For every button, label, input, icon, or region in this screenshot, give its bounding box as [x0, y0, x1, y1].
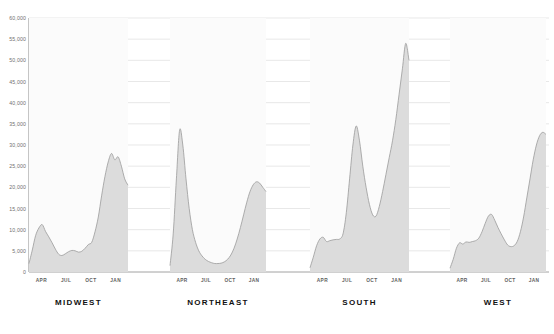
x-axis-tick-label: APR [171, 278, 193, 283]
y-axis-tick-label: 25,000 [0, 163, 26, 169]
x-axis-tick-label: OCT [80, 278, 102, 283]
panel-title-northeast: NORTHEAST [148, 298, 288, 307]
y-axis-tick-label: 35,000 [0, 121, 26, 127]
x-axis-tick-label: JUL [55, 278, 77, 283]
x-axis-tick-label: JAN [523, 278, 545, 283]
y-axis-tick-label: 50,000 [0, 57, 26, 63]
x-axis-tick-label: OCT [219, 278, 241, 283]
panel-south [310, 18, 409, 272]
panel-midwest [29, 18, 128, 272]
y-axis-tick-label: 45,000 [0, 79, 26, 85]
y-axis-tick-label: 0 [0, 269, 26, 275]
x-axis-tick-label: OCT [361, 278, 383, 283]
panel-title-south: SOUTH [290, 298, 430, 307]
x-axis-tick-label: JAN [243, 278, 265, 283]
panel-title-midwest: MIDWEST [9, 298, 149, 307]
x-axis-tick-label: APR [311, 278, 333, 283]
x-axis-tick-label: APR [451, 278, 473, 283]
y-axis-tick-label: 60,000 [0, 15, 26, 21]
x-axis-tick-label: JUL [475, 278, 497, 283]
y-axis-tick-label: 30,000 [0, 142, 26, 148]
y-axis-tick-label: 5,000 [0, 248, 26, 254]
x-axis-tick-label: JUL [336, 278, 358, 283]
y-axis-tick-label: 15,000 [0, 206, 26, 212]
chart-canvas [0, 0, 554, 334]
y-axis-tick-label: 40,000 [0, 100, 26, 106]
panel-northeast [170, 18, 266, 272]
x-axis-tick-label: OCT [499, 278, 521, 283]
y-axis-tick-label: 10,000 [0, 227, 26, 233]
y-axis-tick-label: 20,000 [0, 184, 26, 190]
x-axis-tick-label: APR [30, 278, 52, 283]
regional-area-chart-panel-group: 05,00010,00015,00020,00025,00030,00035,0… [0, 0, 554, 334]
panel-title-west: WEST [428, 298, 554, 307]
x-axis-tick-label: JAN [105, 278, 127, 283]
panel-west [450, 18, 546, 272]
x-axis-tick-label: JAN [386, 278, 408, 283]
x-axis-tick-label: JUL [195, 278, 217, 283]
y-axis-tick-label: 55,000 [0, 36, 26, 42]
